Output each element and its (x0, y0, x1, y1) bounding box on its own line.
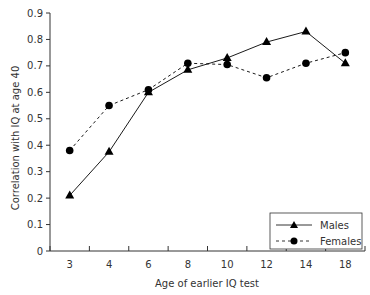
x-tick-label: 4 (106, 259, 112, 270)
x-axis-title: Age of earlier IQ test (155, 278, 259, 289)
triangle-marker-icon (301, 27, 310, 35)
y-tick-label: 0.2 (27, 193, 43, 204)
circle-marker-icon (66, 147, 74, 155)
y-tick-label: 0.4 (27, 140, 43, 151)
y-tick-label: 0.3 (27, 166, 43, 177)
circle-marker-icon (302, 59, 310, 67)
series-males (65, 27, 350, 199)
y-axis-title: Correlation with IQ at age 40 (10, 66, 21, 210)
circle-marker-icon (184, 59, 192, 67)
circle-marker-icon (105, 102, 113, 110)
triangle-marker-icon (105, 147, 114, 155)
x-tick-label: 6 (145, 259, 151, 270)
x-tick-label: 18 (339, 259, 352, 270)
y-axis-ticks: 00.10.20.30.40.50.60.70.80.9 (27, 8, 50, 257)
line-chart: 00.10.20.30.40.50.60.70.80.9 34681012141… (0, 0, 370, 295)
series-females (66, 49, 349, 154)
circle-marker-icon (263, 74, 271, 82)
y-tick-label: 0.1 (27, 219, 43, 230)
legend-label-males: Males (320, 220, 349, 231)
circle-marker-icon (145, 86, 153, 94)
y-tick-label: 0.6 (27, 87, 43, 98)
x-tick-label: 8 (185, 259, 191, 270)
x-tick-label: 10 (221, 259, 234, 270)
circle-marker-icon (223, 61, 231, 69)
triangle-marker-icon (341, 58, 350, 66)
y-tick-label: 0.9 (27, 8, 43, 19)
x-tick-label: 14 (300, 259, 313, 270)
series-line (70, 53, 346, 151)
legend: Males Females (270, 213, 362, 249)
y-tick-label: 0.8 (27, 34, 43, 45)
circle-marker-icon (291, 238, 298, 245)
y-tick-label: 0.7 (27, 60, 43, 71)
x-tick-label: 12 (260, 259, 273, 270)
series-layer (65, 27, 350, 199)
circle-marker-icon (342, 49, 350, 57)
series-line (70, 32, 346, 196)
x-tick-label: 3 (67, 259, 73, 270)
y-tick-label: 0.5 (27, 113, 43, 124)
legend-label-females: Females (320, 236, 361, 247)
x-axis-ticks: 346810121418 (50, 246, 365, 270)
y-tick-label: 0 (37, 246, 43, 257)
